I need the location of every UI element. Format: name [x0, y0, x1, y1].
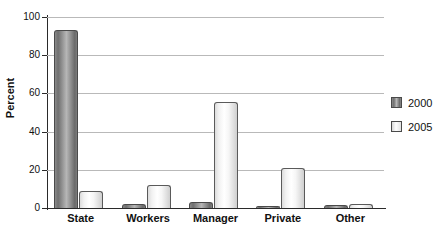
bar-private-2005[interactable]	[281, 168, 305, 208]
gridline-100	[47, 17, 384, 18]
legend-item-2005[interactable]: 2005	[391, 120, 432, 133]
bar-state-2000[interactable]	[54, 30, 78, 208]
bar-manager-2005[interactable]	[214, 102, 238, 208]
legend-item-2000[interactable]: 2000	[391, 96, 432, 109]
y-tick-label-100: 100	[0, 11, 40, 22]
plot-area	[47, 17, 384, 208]
bar-state-2005[interactable]	[79, 191, 103, 208]
x-axis-line	[47, 208, 386, 209]
bar-other-2005[interactable]	[349, 204, 373, 208]
y-tick-label-40: 40	[0, 126, 40, 137]
bar-chart: Percent 020406080100 StateWorkersManager…	[0, 0, 442, 238]
y-tick-label-80: 80	[0, 49, 40, 60]
legend-label-2005: 2005	[408, 121, 432, 133]
bar-other-2000[interactable]	[324, 205, 348, 208]
legend: 2000 2005	[391, 96, 432, 144]
legend-swatch-2005-icon	[391, 121, 402, 132]
x-tick-label-other: Other	[305, 212, 395, 224]
bar-manager-2000[interactable]	[189, 202, 213, 208]
legend-swatch-2000-icon	[391, 97, 402, 108]
bar-workers-2005[interactable]	[147, 185, 171, 208]
y-tick-label-20: 20	[0, 164, 40, 175]
bar-private-2000[interactable]	[256, 206, 280, 208]
gridline-60	[47, 93, 384, 94]
gridline-80	[47, 55, 384, 56]
y-tick-label-60: 60	[0, 87, 40, 98]
bar-workers-2000[interactable]	[122, 204, 146, 208]
legend-label-2000: 2000	[408, 97, 432, 109]
y-tick-label-0: 0	[0, 202, 40, 213]
